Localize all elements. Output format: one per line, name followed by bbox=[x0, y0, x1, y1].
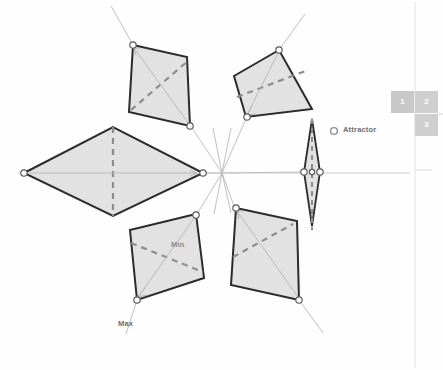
node-handle[interactable] bbox=[233, 205, 239, 211]
node-handle[interactable] bbox=[200, 170, 206, 176]
panel-top-left[interactable] bbox=[129, 45, 190, 126]
node-handle[interactable] bbox=[130, 42, 136, 48]
cad-viewport-screenshot: Attractor Min Max 1 2 3 bbox=[0, 0, 443, 370]
node-handle[interactable] bbox=[21, 170, 27, 176]
step-badge-2[interactable]: 2 bbox=[415, 91, 438, 113]
panel-bottom-right-face[interactable] bbox=[231, 208, 299, 300]
node-handle[interactable] bbox=[244, 114, 250, 120]
panel-bottom-left[interactable] bbox=[130, 214, 204, 300]
node-handle[interactable] bbox=[187, 123, 193, 129]
node-handle[interactable] bbox=[193, 212, 199, 218]
panel-top-right[interactable] bbox=[234, 50, 312, 117]
node-handle[interactable] bbox=[134, 297, 140, 303]
min-annotation-label: Min bbox=[171, 240, 185, 249]
node-handle[interactable] bbox=[301, 169, 307, 175]
attractor-legend-icon bbox=[331, 128, 338, 135]
max-annotation-label: Max bbox=[118, 319, 133, 328]
step-number-badges: 1 2 3 bbox=[391, 91, 439, 136]
design-canvas[interactable] bbox=[0, 0, 443, 370]
panel-bottom-right[interactable] bbox=[231, 208, 299, 300]
node-handle[interactable] bbox=[317, 169, 323, 175]
step-badge-3[interactable]: 3 bbox=[415, 114, 438, 136]
step-badge-1[interactable]: 1 bbox=[391, 91, 414, 113]
attractor-legend-label: Attractor bbox=[343, 125, 376, 134]
panel-left-kite[interactable] bbox=[24, 127, 203, 216]
node-handle[interactable] bbox=[276, 47, 282, 53]
node-handle[interactable] bbox=[309, 169, 314, 174]
node-handle[interactable] bbox=[296, 297, 302, 303]
